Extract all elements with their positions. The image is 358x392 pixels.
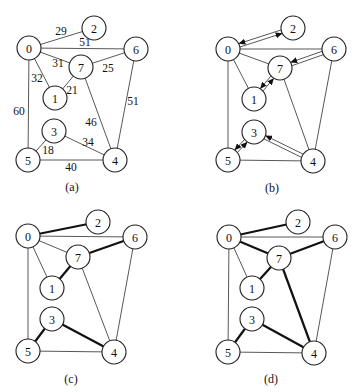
edge-1-7-to_v: [263, 78, 274, 91]
edge-6-4: [314, 237, 335, 353]
panel-caption-d: (d): [264, 372, 278, 386]
node-label: 1: [49, 282, 55, 296]
edge-0-6: [29, 48, 136, 49]
panel-d: 01234567(d): [216, 210, 347, 386]
node-3: 3: [42, 119, 66, 143]
edge-0-2-to_v: [240, 33, 282, 47]
edge-weight-label: 40: [65, 161, 77, 173]
edge-weight-label: 32: [31, 72, 43, 84]
edge-weight-label: 46: [85, 116, 97, 128]
node-3: 3: [40, 307, 64, 331]
node-2: 2: [281, 16, 305, 40]
node-5: 5: [216, 340, 240, 364]
edge-5-3-to_v: [237, 142, 247, 152]
edge-7-4: [78, 257, 114, 352]
node-4: 4: [302, 341, 326, 365]
node-label: 2: [290, 22, 296, 36]
node-label: 6: [331, 43, 337, 57]
node-7: 7: [267, 246, 291, 270]
node-1: 1: [242, 87, 266, 111]
edge-6-4: [114, 237, 135, 352]
edge-4-3-to_v: [266, 136, 303, 154]
node-3: 3: [240, 307, 264, 331]
edge-5-4: [28, 351, 114, 352]
node-7: 7: [66, 245, 90, 269]
node-label: 2: [295, 216, 301, 230]
edge-weight-label: 60: [13, 105, 25, 117]
node-label: 5: [225, 154, 231, 168]
panel-caption-c: (c): [64, 372, 77, 386]
node-5: 5: [16, 148, 40, 172]
node-0: 0: [17, 36, 41, 60]
node-label: 7: [75, 251, 81, 265]
node-5: 5: [216, 148, 240, 172]
node-label: 5: [25, 345, 31, 359]
edge-5-3-to_u: [235, 140, 245, 150]
figure-stage: 29513125322160514634184001234567(a) 0123…: [0, 0, 358, 392]
node-label: 1: [52, 92, 58, 106]
node-6: 6: [323, 225, 347, 249]
node-label: 0: [26, 42, 32, 56]
node-6: 6: [123, 225, 147, 249]
node-1: 1: [240, 276, 264, 300]
node-4: 4: [102, 340, 126, 364]
edge-4-3-to_u: [264, 139, 301, 157]
edge-5-4: [228, 352, 314, 353]
node-label: 5: [225, 346, 231, 360]
node-4: 4: [103, 148, 127, 172]
node-0: 0: [217, 225, 241, 249]
node-label: 7: [276, 252, 282, 266]
node-2: 2: [86, 210, 110, 234]
node-label: 1: [249, 282, 255, 296]
node-label: 7: [78, 61, 84, 75]
edge-5-4: [228, 160, 313, 161]
node-label: 6: [332, 231, 338, 245]
graph-figure: 29513125322160514634184001234567(a) 0123…: [0, 0, 358, 392]
edge-0-2-to_u: [239, 30, 281, 44]
edge-7-4: [280, 68, 313, 161]
edge-weight-label: 51: [127, 95, 139, 107]
edge-6-4: [313, 49, 334, 161]
edge-1-7-to_u: [260, 76, 271, 89]
node-label: 2: [95, 216, 101, 230]
panel-caption-b: (b): [265, 181, 279, 195]
edge-0-6: [28, 236, 135, 237]
node-0: 0: [216, 37, 240, 61]
edge-0-5: [28, 48, 29, 160]
node-7: 7: [268, 56, 292, 80]
panel-caption-a: (a): [65, 180, 78, 194]
edge-weight-label: 18: [42, 144, 54, 156]
node-2: 2: [286, 210, 310, 234]
node-label: 4: [112, 154, 118, 168]
edge-weight-label: 34: [82, 136, 94, 148]
node-label: 0: [226, 231, 232, 245]
panel-c: 01234567(c): [16, 210, 147, 386]
node-6: 6: [124, 37, 148, 61]
node-label: 7: [277, 62, 283, 76]
edge-weight-label: 25: [102, 62, 114, 74]
node-5: 5: [16, 339, 40, 363]
node-7: 7: [69, 55, 93, 79]
panel-b: 01234567(b): [216, 16, 346, 195]
node-0: 0: [16, 224, 40, 248]
edge-weight-label: 21: [66, 84, 78, 96]
node-label: 4: [311, 347, 317, 361]
node-label: 6: [132, 231, 138, 245]
node-label: 2: [91, 22, 97, 36]
edge-weight-label: 31: [52, 57, 64, 69]
edge-0-5: [228, 237, 229, 352]
node-label: 3: [51, 125, 57, 139]
edge-7-4-tree: [279, 258, 314, 353]
node-label: 3: [251, 126, 257, 140]
node-label: 1: [251, 93, 257, 107]
node-4: 4: [301, 149, 325, 173]
node-1: 1: [43, 86, 67, 110]
node-label: 6: [133, 43, 139, 57]
node-3: 3: [242, 120, 266, 144]
panel-a: 29513125322160514634184001234567(a): [13, 16, 148, 194]
node-label: 3: [249, 313, 255, 327]
node-label: 3: [49, 313, 55, 327]
edge-weight-label: 29: [55, 25, 67, 37]
node-label: 4: [310, 155, 316, 169]
node-2: 2: [82, 16, 106, 40]
